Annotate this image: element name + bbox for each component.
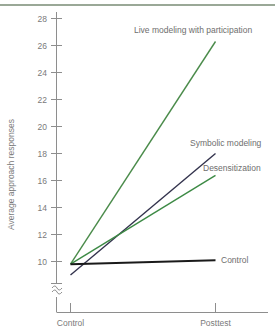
y-tick-label-18: 18	[38, 149, 48, 159]
series-line-symbolic-modeling	[71, 154, 216, 276]
axis-break-icon	[52, 290, 62, 294]
y-tick-label-10: 10	[38, 257, 48, 267]
y-tick-label-24: 24	[38, 68, 48, 78]
y-tick-label-22: 22	[38, 95, 48, 105]
series-label-live-modeling: Live modeling with participation	[134, 25, 252, 35]
y-tick-label-14: 14	[38, 203, 48, 213]
series-label-desensitization: Desensitization	[203, 163, 261, 173]
series-label-symbolic-modeling: Symbolic modeling	[190, 138, 262, 148]
y-tick-label-12: 12	[38, 230, 48, 240]
y-tick-label-20: 20	[38, 122, 48, 132]
y-tick-label-28: 28	[38, 14, 48, 24]
series-line-desensitization	[71, 175, 216, 264]
x-tick-label-posttest: Posttest	[200, 318, 231, 328]
figure-container: 28 26 24 22 20 18 16 14 12 10 Control Po…	[0, 0, 275, 332]
y-tick-label-16: 16	[38, 176, 48, 186]
x-tick-label-control: Control	[57, 318, 85, 328]
series-line-control	[71, 260, 216, 264]
axis-break-icon-secondary	[52, 286, 62, 290]
y-axis-title: Average approach responses	[6, 119, 16, 230]
line-chart: 28 26 24 22 20 18 16 14 12 10 Control Po…	[0, 0, 275, 332]
series-label-control: Control	[221, 255, 249, 265]
series-line-live-modeling	[71, 42, 216, 265]
y-tick-label-26: 26	[38, 41, 48, 51]
